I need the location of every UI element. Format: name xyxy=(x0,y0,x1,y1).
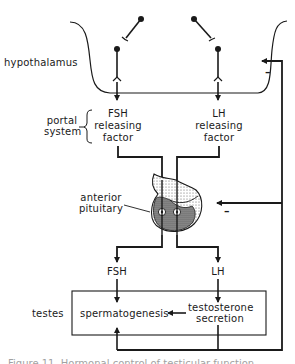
fsh-releasing-factor-label: FSH releasing factor xyxy=(92,108,144,144)
testosterone-line1: testosterone xyxy=(188,302,252,313)
fsh-neurons xyxy=(113,16,144,100)
portal-label-line2: system xyxy=(44,126,80,137)
fsh-rf-line1: FSH xyxy=(92,108,144,120)
lh-releasing-factor-label: LH releasing factor xyxy=(193,108,245,144)
hypothalamus-label: hypothalamus xyxy=(4,57,78,68)
lh-neurons xyxy=(191,16,222,100)
pituitary-label-line1: anterior xyxy=(76,192,126,203)
anterior-pituitary-label: anterior pituitary xyxy=(76,192,126,214)
testosterone-line2: secretion xyxy=(188,313,252,324)
lh-rf-line1: LH xyxy=(193,108,245,120)
portal-system-label: portal system xyxy=(44,115,80,137)
hypothalamus-inhibition-sign: – xyxy=(265,66,271,79)
fsh-rf-line3: factor xyxy=(92,132,144,144)
hypothalamus-outline xyxy=(70,21,287,93)
lh-rf-line3: factor xyxy=(193,132,245,144)
fsh-hormone-label: FSH xyxy=(102,266,132,277)
lh-hormone-label: LH xyxy=(203,266,233,277)
testosterone-secretion-label: testosterone secretion xyxy=(188,302,252,324)
fsh-rf-line2: releasing xyxy=(92,120,144,132)
figure-caption: Figure 11. Hormonal control of testicula… xyxy=(8,357,254,364)
pituitary-inhibition-sign: – xyxy=(224,205,230,218)
lh-rf-line2: releasing xyxy=(193,120,245,132)
pituitary-gland xyxy=(152,174,202,235)
spermatogenesis-label: spermatogenesis xyxy=(80,308,169,319)
portal-bracket xyxy=(84,110,92,143)
portal-label-line1: portal xyxy=(44,115,80,126)
testes-label: testes xyxy=(32,308,64,319)
pituitary-label-line2: pituitary xyxy=(76,203,126,214)
